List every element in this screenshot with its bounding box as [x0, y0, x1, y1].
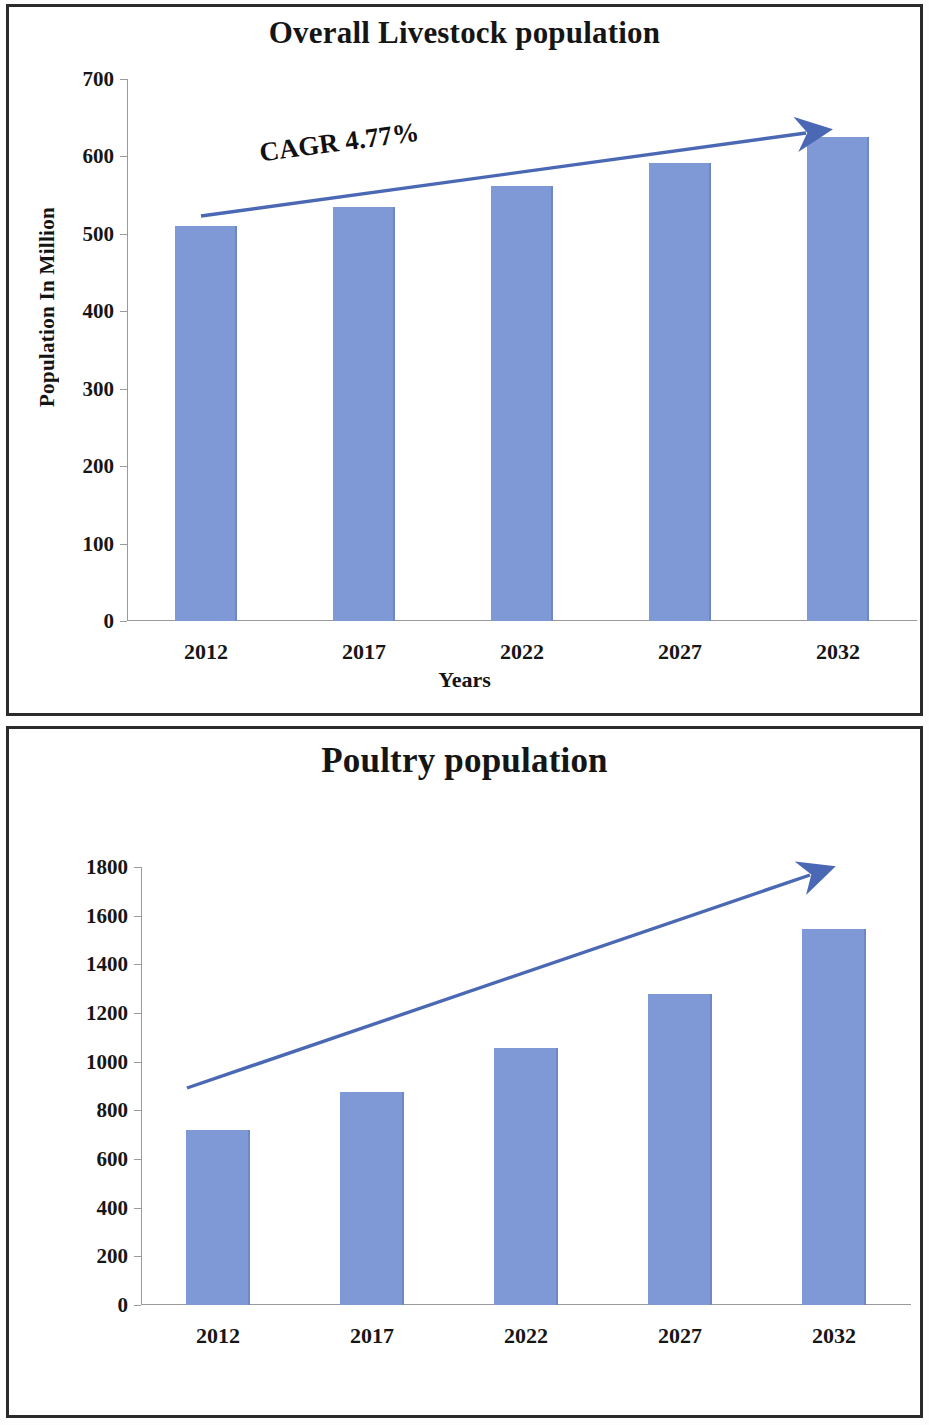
x-axis-tick-label: 2017 [342, 639, 386, 665]
x-axis-tick-label: 2032 [812, 1323, 856, 1349]
chart-panel-livestock: Overall Livestock population Population … [6, 4, 923, 716]
y-axis-tick [134, 1159, 141, 1160]
bar [491, 186, 553, 621]
y-axis-line [141, 867, 142, 1305]
x-axis-tick-label: 2022 [504, 1323, 548, 1349]
bar [494, 1048, 558, 1305]
y-axis-tick-label: 100 [83, 531, 115, 556]
y-axis-tick [134, 1208, 141, 1209]
y-axis-tick [134, 867, 141, 868]
y-axis-tick-label: 400 [83, 299, 115, 324]
y-axis-tick-label: 0 [104, 609, 115, 634]
y-axis-tick [134, 1256, 141, 1257]
x-axis-tick-label: 2012 [184, 639, 228, 665]
y-axis-tick [120, 311, 127, 312]
y-axis-tick [134, 964, 141, 965]
x-axis-tick-label: 2012 [196, 1323, 240, 1349]
bar [648, 994, 712, 1305]
chart-panel-poultry: Poultry population Population In Million… [6, 726, 923, 1418]
y-axis-tick [134, 1305, 141, 1306]
y-axis-tick [120, 621, 127, 622]
x-axis-tick-label: 2032 [816, 639, 860, 665]
y-axis-tick [134, 1062, 141, 1063]
y-axis-tick-label: 1800 [86, 855, 128, 880]
bar [175, 226, 237, 621]
x-axis-tick-label: 2027 [658, 1323, 702, 1349]
y-axis-tick-label: 1200 [86, 1001, 128, 1026]
y-axis-tick [134, 1110, 141, 1111]
y-axis-tick-label: 200 [83, 454, 115, 479]
y-axis-tick [120, 79, 127, 80]
y-axis-tick-label: 1400 [86, 952, 128, 977]
y-axis-title-livestock: Population In Million [35, 207, 60, 407]
y-axis-line [127, 79, 128, 621]
chart-title-poultry: Poultry population [9, 741, 920, 781]
bar [802, 929, 866, 1305]
y-axis-tick-label: 200 [97, 1244, 129, 1269]
y-axis-tick [134, 916, 141, 917]
x-axis-tick-label: 2027 [658, 639, 702, 665]
y-axis-tick [120, 156, 127, 157]
chart-title-livestock: Overall Livestock population [9, 15, 920, 51]
y-axis-tick-label: 600 [97, 1147, 129, 1172]
y-axis-tick [120, 234, 127, 235]
plot-area-livestock: 0100200300400500600700201220172022202720… [127, 79, 917, 621]
plot-area-poultry: 0200400600800100012001400160018002012201… [141, 867, 911, 1305]
y-axis-tick-label: 0 [118, 1293, 129, 1318]
y-axis-tick-label: 500 [83, 221, 115, 246]
y-axis-tick [120, 466, 127, 467]
bar [807, 137, 869, 621]
y-axis-tick [120, 544, 127, 545]
y-axis-tick-label: 700 [83, 67, 115, 92]
y-axis-tick-label: 600 [83, 144, 115, 169]
bar [649, 163, 711, 621]
y-axis-tick-label: 400 [97, 1195, 129, 1220]
y-axis-tick [134, 1013, 141, 1014]
x-axis-title-livestock: Years [9, 667, 920, 693]
bar [186, 1130, 250, 1305]
x-axis-tick-label: 2017 [350, 1323, 394, 1349]
y-axis-tick [120, 389, 127, 390]
bar [333, 207, 395, 621]
y-axis-tick-label: 800 [97, 1098, 129, 1123]
figure-page: Overall Livestock population Population … [0, 0, 929, 1425]
y-axis-tick-label: 1000 [86, 1049, 128, 1074]
y-axis-tick-label: 1600 [86, 903, 128, 928]
x-axis-tick-label: 2022 [500, 639, 544, 665]
bar [340, 1092, 404, 1305]
y-axis-tick-label: 300 [83, 376, 115, 401]
